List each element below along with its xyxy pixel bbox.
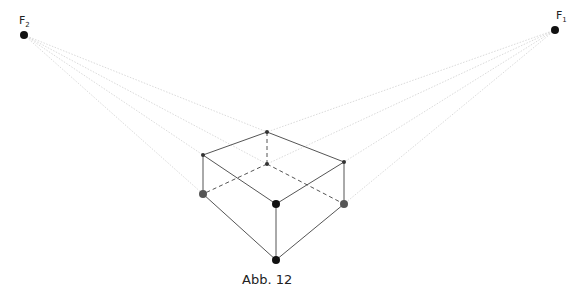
perspective-diagram bbox=[0, 0, 586, 298]
hidden-edges bbox=[203, 132, 344, 204]
visible-edges bbox=[203, 132, 344, 260]
label-f1: F1 bbox=[556, 9, 567, 24]
vanishing-point-f2 bbox=[20, 31, 28, 39]
label-f2: F2 bbox=[19, 14, 30, 29]
guide-lines bbox=[24, 30, 555, 204]
points bbox=[20, 26, 559, 264]
figure-caption: Abb. 12 bbox=[242, 272, 292, 287]
vanishing-point-f1 bbox=[551, 26, 559, 34]
